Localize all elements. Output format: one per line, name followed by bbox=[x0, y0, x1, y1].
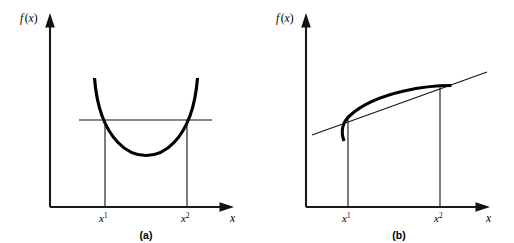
convex-curve bbox=[95, 78, 198, 156]
panel-b-y-axis bbox=[301, 13, 311, 207]
svg-text:x1: x1 bbox=[98, 212, 108, 225]
y-axis-arrow-icon bbox=[301, 13, 311, 28]
panel-b-y-axis-label: f(x) bbox=[276, 12, 294, 25]
panel-b-caption: (b) bbox=[392, 229, 405, 241]
x-axis-arrow-icon bbox=[476, 202, 491, 212]
y-axis-arrow-icon bbox=[45, 13, 55, 28]
panel-b-x-axis bbox=[306, 202, 490, 212]
panel-a-tick-label-x2: x2 bbox=[180, 212, 190, 225]
panel-a-tick-label-x1: x1 bbox=[98, 212, 108, 225]
svg-text:x2: x2 bbox=[433, 212, 443, 225]
panel-b-tick-label-x2: x2 bbox=[433, 212, 443, 225]
panel-a-caption: (a) bbox=[140, 229, 153, 241]
panel-b-x-axis-label: x bbox=[485, 212, 492, 224]
x-axis-arrow-icon bbox=[220, 202, 235, 212]
svg-text:x2: x2 bbox=[180, 212, 190, 225]
panel-b: f(x) x x1 x2 (b) bbox=[276, 12, 492, 241]
figure-canvas: f(x) x x1 x2 (a) bbox=[0, 0, 514, 243]
panel-a-y-axis-label: f(x) bbox=[20, 12, 38, 25]
panel-b-tick-label-x1: x1 bbox=[341, 212, 351, 225]
panel-a-x-axis bbox=[50, 202, 234, 212]
secant-line bbox=[312, 72, 487, 135]
concave-curve bbox=[342, 86, 451, 142]
panel-a: f(x) x x1 x2 (a) bbox=[20, 12, 236, 241]
panel-a-x-axis-label: x bbox=[229, 212, 236, 224]
svg-text:x1: x1 bbox=[341, 212, 351, 225]
figure-container: f(x) x x1 x2 (a) bbox=[0, 0, 514, 243]
panel-a-y-axis bbox=[45, 13, 55, 207]
